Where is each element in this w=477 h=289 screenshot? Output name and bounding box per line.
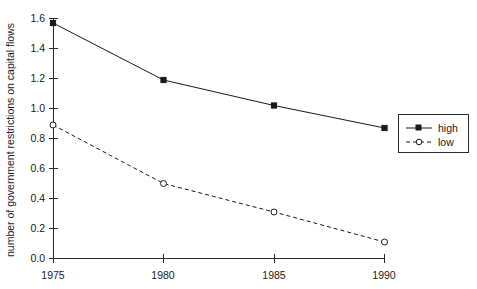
y-tick-label: 1.0 (30, 102, 45, 114)
y-tick-label: 0.6 (30, 162, 45, 174)
series-line-low (53, 125, 385, 242)
series-high (50, 20, 387, 130)
legend-low-marker (416, 139, 422, 145)
x-tick-label: 1985 (262, 269, 286, 281)
x-tick-label: 1975 (41, 269, 65, 281)
data-point-low-1985 (271, 209, 277, 215)
data-point-low-1975 (50, 122, 56, 128)
x-tick-label: 1990 (372, 269, 396, 281)
data-point-high-1975 (50, 20, 55, 25)
x-axis-tick-labels: 1975 1980 1985 1990 (41, 269, 396, 281)
line-chart: number of government restrictions on cap… (0, 0, 477, 289)
y-axis-tick-labels: 1.6 1.4 1.2 1.0 0.8 0.6 0.4 0.2 0.0 (30, 12, 45, 264)
legend-label-low: low (438, 136, 454, 148)
y-tick-label: 0.4 (30, 192, 45, 204)
data-point-low-1980 (161, 181, 167, 187)
data-point-high-1990 (382, 125, 387, 130)
data-point-high-1985 (271, 103, 276, 108)
legend[interactable]: high low (399, 115, 469, 153)
series-line-high (53, 23, 385, 128)
y-tick-label: 1.6 (30, 12, 45, 24)
series-low (50, 122, 388, 245)
chart-container: number of government restrictions on cap… (0, 0, 477, 289)
y-tick-label: 1.4 (30, 42, 45, 54)
legend-label-high: high (438, 122, 458, 134)
y-tick-label: 0.8 (30, 132, 45, 144)
data-point-low-1990 (382, 239, 388, 245)
y-axis-title: number of government restrictions on cap… (4, 23, 16, 257)
x-tick-label: 1980 (151, 269, 175, 281)
legend-high-marker (416, 125, 421, 130)
y-tick-label: 1.2 (30, 72, 45, 84)
legend-box (399, 115, 469, 153)
data-point-high-1980 (161, 77, 166, 82)
y-tick-label: 0.0 (30, 252, 45, 264)
y-tick-label: 0.2 (30, 222, 45, 234)
